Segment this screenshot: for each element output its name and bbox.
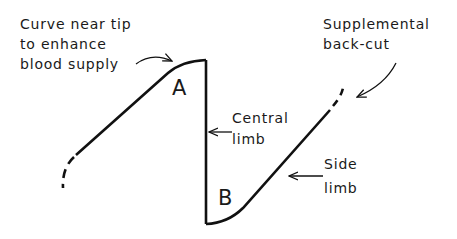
- curve-note-label: Curve near tip to enhance blood supply: [20, 14, 132, 74]
- curve-note-line-2: to enhance: [20, 34, 132, 54]
- point-a-label: A: [172, 76, 186, 100]
- point-b-label: B: [218, 186, 232, 210]
- central-limb-line-2: limb: [232, 129, 289, 150]
- left-dashed-extension: [63, 157, 74, 188]
- supplemental-label: Supplemental back-cut: [323, 14, 430, 54]
- side-limb-line-1: Side: [324, 152, 358, 176]
- upper-limb-line: [76, 60, 206, 155]
- side-limb-label: Side limb: [324, 152, 358, 200]
- central-limb-line-1: Central: [232, 108, 289, 129]
- curve-note-line-1: Curve near tip: [20, 14, 132, 34]
- curve-note-line-3: blood supply: [20, 54, 132, 74]
- side-limb-line-2: limb: [324, 176, 358, 200]
- supplemental-line-2: back-cut: [323, 34, 430, 54]
- curve-note-arrow: [136, 57, 172, 64]
- supplemental-arrow: [357, 63, 396, 97]
- supplemental-line-1: Supplemental: [323, 14, 430, 34]
- supplemental-backcut-dashed: [333, 88, 343, 106]
- central-limb-label: Central limb: [232, 108, 289, 150]
